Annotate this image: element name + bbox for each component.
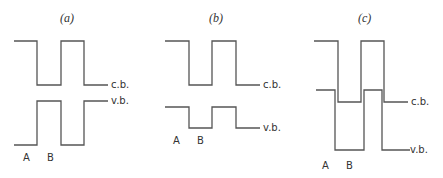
panel-c-vb-label: v.b. — [410, 144, 428, 155]
panel-a: (a) c.b. v.b. A B — [14, 11, 129, 163]
panel-c-title: (c) — [358, 11, 371, 25]
panel-b-conduction-band — [165, 41, 260, 85]
panel-b-vb-label: v.b. — [263, 122, 281, 133]
panel-b-title: (b) — [209, 11, 223, 25]
panel-b-cb-label: c.b. — [263, 79, 281, 90]
panel-a-region-a: A — [23, 152, 30, 163]
panel-c-conduction-band — [314, 41, 408, 102]
panel-c-valence-band — [316, 90, 410, 150]
panel-b-region-b: B — [197, 135, 204, 146]
band-alignment-diagram: (a) c.b. v.b. A B (b) c.b. v.b. A B (c) … — [0, 0, 443, 178]
panel-a-valence-band — [14, 101, 108, 145]
panel-c-cb-label: c.b. — [411, 96, 429, 107]
panel-b-region-a: A — [173, 135, 180, 146]
panel-c-region-b: B — [346, 160, 353, 171]
panel-a-vb-label: v.b. — [111, 95, 129, 106]
panel-a-cb-label: c.b. — [111, 79, 129, 90]
panel-a-region-b: B — [47, 152, 54, 163]
panel-c: (c) c.b. v.b. A B — [314, 11, 429, 171]
panel-c-region-a: A — [322, 160, 329, 171]
panel-a-conduction-band — [14, 41, 108, 85]
panel-b: (b) c.b. v.b. A B — [165, 11, 281, 146]
panel-b-valence-band — [165, 107, 260, 128]
diagram-svg: (a) c.b. v.b. A B (b) c.b. v.b. A B (c) … — [0, 0, 443, 178]
panel-a-title: (a) — [60, 11, 74, 25]
